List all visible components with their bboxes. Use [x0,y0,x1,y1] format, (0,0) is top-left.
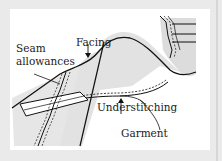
sewing-illustration [0,0,222,161]
garment-label: Garment [121,128,168,139]
seam-allowances-label-line1: Seam [16,43,46,54]
facing-label: Facing [76,37,112,48]
understitching-label: Understitching [97,102,177,113]
seam-allowances-label-line2: allowances [16,56,75,67]
